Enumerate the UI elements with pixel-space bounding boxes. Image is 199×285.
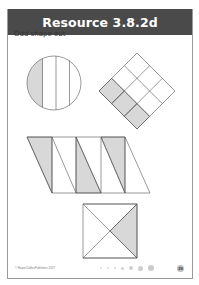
dot <box>121 267 124 270</box>
circle-shape <box>27 56 81 110</box>
dot <box>129 266 133 270</box>
dot <box>100 267 102 269</box>
page-number: 29 <box>177 265 184 272</box>
dot <box>138 266 143 271</box>
shapes-figure <box>0 0 199 285</box>
dot <box>107 267 109 269</box>
crossed-square-shape <box>83 204 137 258</box>
copyright-text: © HarperCollinsPublishers 2017 <box>15 266 55 270</box>
dot <box>114 267 117 270</box>
diamond-grid-shape <box>99 53 175 129</box>
page-decoration-dots <box>100 265 154 271</box>
parallelogram-shape <box>27 137 150 193</box>
dot <box>148 265 154 271</box>
